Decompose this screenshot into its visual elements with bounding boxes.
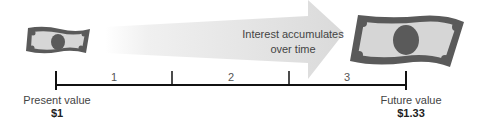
future-value-block: Future value $1.33 bbox=[370, 94, 452, 119]
present-value-label: Present value bbox=[16, 94, 98, 106]
future-value-label: Future value bbox=[370, 94, 452, 106]
present-value-amount: $1 bbox=[16, 107, 98, 119]
period-2-label: 2 bbox=[225, 71, 237, 83]
future-value-amount: $1.33 bbox=[370, 107, 452, 119]
period-3-label: 3 bbox=[341, 71, 353, 83]
present-value-block: Present value $1 bbox=[16, 94, 98, 119]
period-1-label: 1 bbox=[108, 71, 120, 83]
